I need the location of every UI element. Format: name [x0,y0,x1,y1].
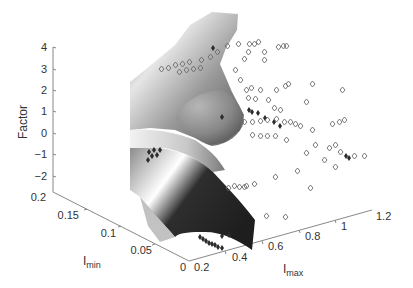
z-tick-label: 2 [41,84,47,96]
lower-surface [130,148,255,250]
imax-tick-label: 0.6 [268,240,283,252]
z-tick-label: −1 [34,148,47,160]
z-tick-labels: 4 3 2 1 0 −1 −2 [34,41,47,182]
z-tick-label: 3 [41,63,47,75]
imax-tick-label: 1 [341,220,347,232]
imin-tick-label: 0.15 [58,209,79,221]
z-axis-label: Factor [16,105,30,139]
imax-axis-label: Imax [283,262,304,278]
imax-tick-label: 0.4 [232,251,247,263]
imin-axis-label: Imin [83,254,101,270]
imin-tick-label: 0 [180,261,186,273]
3d-surface-chart: 4 3 2 1 0 −1 −2 0.2 0.15 0.1 0.05 0 0.2 … [0,0,413,288]
imax-tick-label: 1.2 [376,210,391,222]
imin-ticks [84,209,155,245]
imin-tick-label: 0.1 [101,227,116,239]
imin-tick-label: 0.05 [131,244,152,256]
imax-tick-label: 0.8 [305,230,320,242]
z-tick-label: 4 [41,41,47,53]
z-tick-label: 1 [41,105,47,117]
z-tick-label: −2 [34,170,47,182]
imax-tick-label: 0.2 [194,261,209,273]
imin-tick-label: 0.2 [31,191,46,203]
z-tick-label: 0 [41,127,47,139]
